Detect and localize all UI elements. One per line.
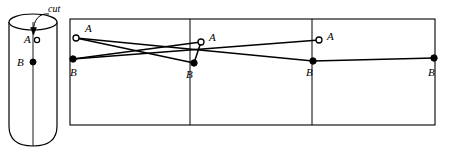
point-a3-label: A — [326, 30, 334, 42]
point-b2-label: B — [186, 68, 193, 80]
figure-container: A B cut — [0, 0, 449, 149]
figure-canvas: A B cut — [0, 0, 449, 149]
cylinder-group: A B cut — [9, 3, 60, 146]
point-b1-marker — [70, 56, 76, 62]
unrolled-group: A B A B A B B — [70, 19, 437, 125]
point-b1-label: B — [70, 66, 77, 78]
point-b4-label: B — [428, 66, 435, 78]
point-b2-marker — [191, 60, 197, 66]
cylinder-point-b-label: B — [17, 56, 24, 68]
point-a1-label: A — [84, 22, 92, 34]
cut-label: cut — [48, 3, 60, 14]
point-a2-label: A — [208, 31, 216, 43]
cylinder-point-a-label: A — [23, 33, 31, 45]
unrolled-rectangle-border — [70, 19, 435, 125]
point-b4-marker — [431, 55, 437, 61]
point-a1-marker — [73, 35, 79, 41]
cylinder-point-b-marker — [30, 59, 36, 65]
point-b3-marker — [310, 58, 316, 64]
point-a2-marker — [198, 39, 204, 45]
point-b3-label: B — [306, 66, 313, 78]
point-a3-marker — [316, 37, 322, 43]
cylinder-point-a-marker — [34, 37, 39, 42]
